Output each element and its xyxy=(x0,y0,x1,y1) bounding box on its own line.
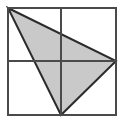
figure-container: Shaded triangle inscribed in a square di… xyxy=(0,0,123,122)
geometry-figure: Shaded triangle inscribed in a square di… xyxy=(0,0,123,122)
